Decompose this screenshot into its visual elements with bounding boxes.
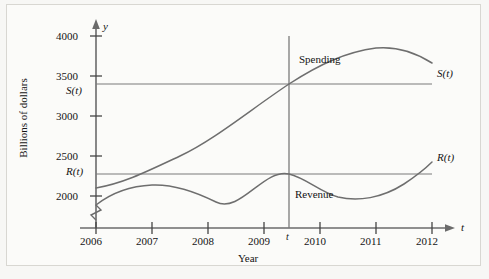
x-tick-label-2009: 2009: [248, 236, 270, 247]
reference-label-s-left: S(t): [66, 85, 82, 96]
x-tick-label-2006: 2006: [80, 236, 102, 247]
y-tick-label-4000: 4000: [56, 31, 78, 42]
curve-label-revenue: R(t): [437, 152, 454, 163]
curve-spending: [96, 48, 432, 188]
annotation-revenue: Revenue: [295, 189, 333, 200]
x-tick-label-2012: 2012: [416, 236, 438, 247]
vertical-marker-label-t: t: [286, 232, 289, 242]
x-tick-label-2011: 2011: [360, 236, 382, 247]
y-tick-label-2500: 2500: [56, 151, 78, 162]
x-axis-arrow: [445, 224, 455, 232]
y-tick-label-3000: 3000: [56, 111, 78, 122]
x-tick-label-2008: 2008: [192, 236, 214, 247]
x-axis-variable-label: t: [461, 222, 464, 233]
x-tick-label-2010: 2010: [304, 236, 326, 247]
y-axis-title: Billions of dollars: [17, 63, 29, 173]
annotation-spending: Spending: [299, 54, 341, 65]
figure-container: 2000 2500 3000 3500 4000 S(t) R(t) 2006 …: [0, 0, 489, 279]
y-axis-variable-label: y: [103, 21, 108, 32]
x-tick-label-2007: 2007: [136, 236, 158, 247]
reference-label-r-left: R(t): [66, 166, 83, 177]
y-tick-label-3500: 3500: [56, 71, 78, 82]
curve-revenue: [96, 162, 432, 205]
curve-label-spending: S(t): [437, 68, 453, 79]
y-tick-label-2000: 2000: [56, 191, 78, 202]
x-axis-title: Year: [238, 252, 258, 264]
y-axis-arrow: [92, 19, 100, 29]
